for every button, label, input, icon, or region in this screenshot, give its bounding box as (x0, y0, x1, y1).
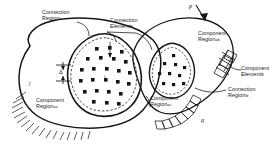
label-component-elements-right-line2: Elements (241, 71, 264, 77)
label-connection-region-a-sub: Ia (59, 17, 62, 22)
label-component-region-a-left-line2: Region (36, 103, 53, 109)
label-component-elements-right-line1: Component (241, 65, 269, 71)
symbol-load-q: q (201, 116, 204, 123)
label-connection-region-b-line2: Region (228, 92, 245, 98)
label-component-region-b-top-line1: Component (198, 30, 226, 36)
symbol-node-i: i (104, 74, 105, 80)
symbol-node-j: j (29, 80, 30, 86)
label-component-region-b-top-sub: ab (215, 38, 219, 43)
label-component-region-c-mid-sub: ac (167, 103, 171, 108)
label-connection-elements-top: Connection Elements (110, 17, 137, 29)
label-connection-elements-top-line1: Connection (110, 17, 137, 23)
symbol-gap-delta: Δ (59, 69, 63, 75)
label-component-region-c-mid-line2: Region (150, 101, 167, 107)
engineering-figure: Connection RegionIa Connection Elements … (0, 0, 277, 144)
label-component-region-a-left: Component Regionaa (36, 97, 64, 111)
connection-region-b-inner-dashed (152, 47, 190, 94)
symbol-load-p: p (189, 2, 192, 9)
label-connection-region-a-line1: Connection (42, 9, 69, 15)
label-connection-elements-top-line2: Elements (110, 23, 133, 29)
component-elements-right-patch (214, 50, 237, 78)
label-component-region-a-left-sub: aa (53, 105, 57, 110)
label-connection-region-b: Connection RegionIb (228, 86, 255, 100)
label-component-region-b-top-line2: Region (198, 36, 215, 42)
label-connection-region-a-line2: Region (42, 15, 59, 21)
label-connection-region-b-line1: Connection (228, 86, 255, 92)
label-component-region-c-mid: Component Regionac (150, 95, 178, 109)
label-component-elements-right: Component Elements (241, 65, 269, 77)
label-component-region-a-left-line1: Component (36, 97, 64, 103)
label-connection-region-b-sub: Ib (245, 94, 248, 99)
component-elements-right-cluster (158, 54, 186, 86)
label-component-region-b-top: Component Regionab (198, 30, 226, 44)
label-connection-region-a: Connection RegionIa (42, 9, 69, 23)
label-component-region-c-mid-line1: Component (150, 95, 178, 101)
